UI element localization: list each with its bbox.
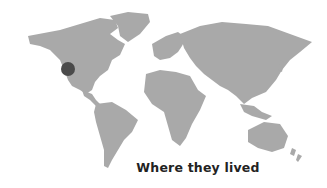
africa xyxy=(144,70,206,146)
world-map-figure: Where they lived xyxy=(0,0,327,188)
north-america xyxy=(28,18,125,94)
map-caption: Where they lived xyxy=(128,160,268,175)
southeast-asia xyxy=(240,104,272,120)
location-marker-icon xyxy=(61,62,75,76)
south-america xyxy=(94,102,138,168)
australia xyxy=(248,122,288,152)
central-america xyxy=(82,90,100,106)
new-zealand xyxy=(290,148,296,156)
